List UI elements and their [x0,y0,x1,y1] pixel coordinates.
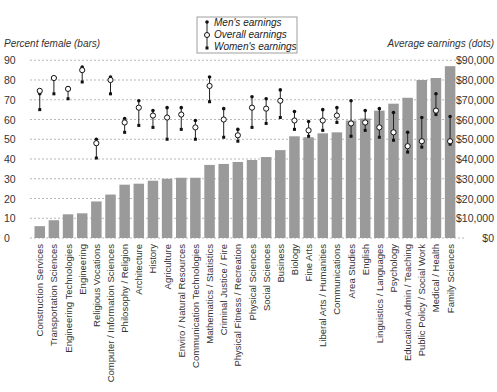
earnings-range [51,75,56,95]
women-earnings-dot [194,138,197,141]
category-label: Physical Sciences [247,244,258,321]
men-earnings-dot [179,106,183,110]
category-label: Public Policy / Social Work [416,244,427,357]
men-earnings-dot [250,95,254,99]
overall-earnings-dot [94,141,99,146]
left-tick-label: 20 [4,193,16,205]
women-earnings-dot [364,129,367,132]
bar [289,136,300,238]
earnings-range [292,110,297,131]
men-earnings-dot [222,107,226,111]
category-label: Computer / Information Sciences [105,244,116,383]
bar [233,162,244,238]
earnings-range [235,128,240,143]
right-tick-label: $0 [482,232,494,244]
men-earnings-dot [208,75,212,79]
women-earnings-dot [378,136,381,139]
overall-earnings-dot [207,83,212,88]
bar [35,226,46,238]
right-tick-label: $50,000 [456,133,494,145]
men-earnings-dot [236,128,240,132]
bar [332,132,343,238]
overall-earnings-dot [150,113,155,118]
category-label: Philosophy / Religion [119,244,130,333]
women-earnings-dot [180,128,183,131]
earnings-range [37,88,42,111]
overall-earnings-dot [51,75,56,80]
overall-earnings-dot [348,121,353,126]
earnings-range [108,75,113,95]
left-axis-ticks: 0102030405060708090 [4,54,16,244]
overall-earnings-dot [320,118,325,123]
overall-earnings-marker-icon [205,33,210,38]
earnings-range [65,86,70,100]
bar [148,181,159,238]
bar [360,119,371,238]
category-labels: Construction ServicesTransportation Scie… [34,244,455,383]
men-earnings-dot [165,106,169,110]
earnings-range [320,108,325,132]
women-earnings-dot [265,122,268,125]
overall-earnings-dot [136,105,141,110]
legend: Men's earnings Overall earnings Women's … [197,17,297,53]
category-label: Physical Fitness / Recreation [232,244,243,367]
category-label: Medical / Health [430,244,441,312]
men-earnings-dot [151,109,155,113]
women-earnings-dot [67,97,70,100]
category-label: Psychology [388,244,399,293]
women-earnings-dot [236,140,239,143]
left-tick-label: 0 [4,232,10,244]
right-axis-title: Average earnings (dots) [386,38,494,49]
right-tick-label: $10,000 [456,212,494,224]
left-tick-label: 10 [4,212,16,224]
men-earnings-dot [137,99,141,103]
overall-earnings-dot [80,68,85,73]
category-label: Business [275,244,286,283]
women-earnings-dot [392,139,395,142]
earnings-range [221,107,226,139]
bar [176,178,187,238]
category-label: Linguistics / Languages [374,244,385,344]
right-tick-label: $70,000 [456,94,494,106]
left-tick-label: 60 [4,114,16,126]
bar [318,133,329,238]
women-earnings-dot [38,108,41,111]
overall-earnings-dot [391,130,396,135]
women-earnings-dot [52,92,55,95]
overall-earnings-dot [221,117,226,122]
right-tick-label: $60,000 [456,114,494,126]
left-tick-label: 70 [4,94,16,106]
men-earnings-dot [378,107,382,111]
category-label: Social Sciences [261,244,272,311]
overall-earnings-dot [122,120,127,125]
category-label: Transportation Sciences [48,244,59,346]
category-label: Family Sciences [445,244,456,313]
bar [417,80,428,238]
women-earnings-dot [123,131,126,134]
legend-women: Women's earnings [214,41,297,52]
overall-earnings-dot [249,105,254,110]
overall-earnings-dot [306,128,311,133]
bar [105,195,116,238]
bars-percent-female [35,66,456,238]
women-earnings-dot [81,80,84,83]
earnings-range [193,119,198,141]
women-earnings-dot [293,128,296,131]
overall-earnings-dot [193,125,198,130]
women-earnings-dot [307,135,310,138]
bar [346,120,357,238]
left-tick-label: 30 [4,173,16,185]
overall-earnings-dot [292,118,297,123]
left-tick-label: 90 [4,54,16,66]
bar [190,178,201,238]
women-earnings-dot [109,92,112,95]
bar [162,179,173,238]
overall-earnings-dot [65,86,70,91]
men-earnings-dot [307,120,311,124]
overall-earnings-dot [165,115,170,120]
category-label: Fine Arts [303,244,314,282]
men-earnings-dot [264,97,268,101]
category-label: History [147,244,158,274]
bar [247,160,258,238]
left-axis-title: Percent female (bars) [4,38,100,49]
